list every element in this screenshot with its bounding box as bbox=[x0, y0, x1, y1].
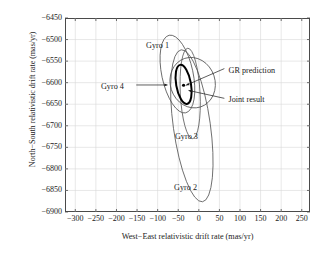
x-axis-title: West−East relativistic drift rate (mas/y… bbox=[65, 232, 310, 241]
annotation-joint-result: Joint result bbox=[228, 95, 264, 104]
annotation-gyro-1: Gyro 1 bbox=[146, 41, 169, 50]
x-tick-label: 250 bbox=[282, 215, 322, 223]
y-axis-title: North−South relativistic drift rate (mas… bbox=[28, 5, 37, 195]
annotation-gyro-3: Gyro 3 bbox=[175, 132, 198, 141]
x-axis-tick-labels: −300−250−200−150−100−50050100150200250 bbox=[65, 215, 310, 227]
y-axis-tick-labels: −6450−6500−6550−6600−6650−6700−6750−6800… bbox=[18, 18, 62, 212]
chart-figure: −6450−6500−6550−6600−6650−6700−6750−6800… bbox=[0, 0, 332, 255]
annotation-gr-prediction: GR prediction bbox=[228, 66, 275, 75]
annotation-gyro-4: Gyro 4 bbox=[101, 82, 124, 91]
annotation-gyro-2: Gyro 2 bbox=[174, 183, 197, 192]
